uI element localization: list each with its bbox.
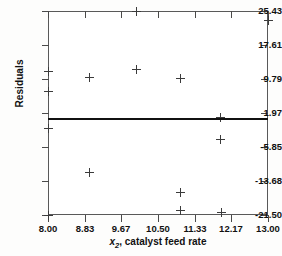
y-axis-tick	[42, 147, 49, 148]
y-axis-tick-label: -13.68	[238, 175, 282, 186]
y-axis-tick-label: -5.85	[238, 141, 282, 152]
residual-scatter-plot: Residuals x2, catalyst feed rate 25.4317…	[0, 0, 282, 256]
x-axis-tick	[231, 215, 232, 222]
plot-area	[48, 11, 268, 215]
x-axis-tick	[85, 215, 86, 222]
x-axis-tick-top	[158, 11, 159, 18]
x-axis-tick-top	[195, 11, 196, 18]
x-axis-tick-top	[231, 11, 232, 18]
x-axis-tick-label: 12.17	[211, 223, 251, 234]
x-axis-tick	[195, 215, 196, 222]
y-axis-title: Residuals	[14, 34, 25, 134]
x-axis-tick	[158, 215, 159, 222]
x-axis-tick-label: 10.50	[138, 223, 178, 234]
x-axis-tick-label: 9.67	[101, 223, 141, 234]
y-axis-tick-label: 17.61	[238, 39, 282, 50]
x-axis-tick-label: 8.83	[65, 223, 105, 234]
x-axis-tick-label: 13.00	[248, 223, 282, 234]
x-axis-tick	[121, 215, 122, 222]
x-axis-tick	[48, 215, 49, 222]
y-axis-tick-label: 25.43	[238, 5, 282, 16]
x-axis-tick-label: 11.33	[175, 223, 215, 234]
x-axis-tick-label: 8.00	[28, 223, 68, 234]
x-axis-tick-top	[48, 11, 49, 18]
x-axis-tick-top	[268, 11, 269, 18]
x-axis-title-rest: , catalyst feed rate	[119, 236, 206, 247]
x-axis-tick	[268, 215, 269, 222]
x-axis-tick-top	[85, 11, 86, 18]
x-axis-title: x2, catalyst feed rate	[48, 236, 268, 250]
x-axis-tick-top	[121, 11, 122, 18]
y-axis-tick	[42, 181, 49, 182]
y-axis-tick-label: 1.97	[238, 107, 282, 118]
y-axis-tick	[42, 113, 49, 114]
y-axis-tick-label: -21.50	[238, 209, 282, 220]
y-axis-tick	[42, 79, 49, 80]
y-axis-tick-label: 9.79	[238, 73, 282, 84]
zero-reference-line	[48, 118, 268, 120]
y-axis-tick	[42, 45, 49, 46]
